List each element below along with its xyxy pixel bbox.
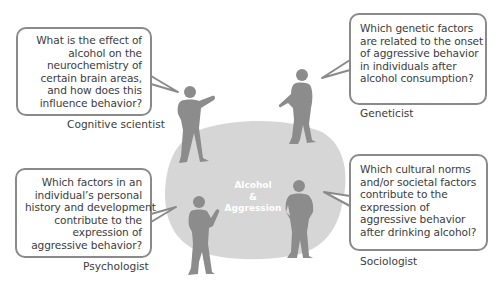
question-line: are related to the onset — [360, 35, 476, 48]
question-line: expression of — [25, 226, 142, 239]
question-line: contribute to the — [360, 188, 477, 201]
pointer-top-right — [322, 60, 350, 78]
role-label-psychologist: Psychologist — [83, 260, 149, 272]
question-line: alcohol on the — [26, 47, 142, 60]
question-line: neurochemistry of — [26, 59, 142, 72]
question-bubble-sociologist: Which cultural norms and/or societal fac… — [349, 154, 488, 251]
question-line: history and development — [25, 201, 142, 214]
center-label: Alcohol & Aggression — [218, 180, 288, 215]
question-line: and how does this — [26, 84, 142, 97]
center-label-line-2: & — [218, 192, 288, 204]
diagram: Alcohol & Aggression What is the effect … — [0, 0, 501, 286]
question-line: individual’s personal — [25, 189, 142, 202]
question-line: aggressive behavior — [360, 213, 477, 226]
question-bubble-geneticist: Which genetic factors are related to the… — [349, 13, 487, 105]
question-line: of aggressive behavior — [360, 47, 476, 60]
question-line: alcohol consumption? — [360, 72, 476, 85]
question-line: Which factors in an — [25, 176, 142, 189]
question-bubble-cognitive-scientist: What is the effect of alcohol on the neu… — [16, 27, 152, 116]
role-label-sociologist: Sociologist — [360, 255, 417, 267]
role-label-geneticist: Geneticist — [360, 107, 414, 119]
question-line: after drinking alcohol? — [360, 226, 477, 239]
question-line: certain brain areas, — [26, 72, 142, 85]
center-label-line-1: Alcohol — [218, 180, 288, 192]
question-line: What is the effect of — [26, 34, 142, 47]
question-line: aggressive behavior? — [25, 239, 142, 252]
center-label-line-3: Aggression — [218, 203, 288, 215]
role-label-cognitive-scientist: Cognitive scientist — [67, 118, 165, 130]
question-line: Which genetic factors — [360, 22, 476, 35]
pointer-top-left — [151, 76, 178, 92]
question-line: expression of — [360, 201, 477, 214]
question-line: and/or societal factors — [360, 176, 477, 189]
question-line: contribute to the — [25, 214, 142, 227]
question-line: in individuals after — [360, 60, 476, 73]
question-line: influence behavior? — [26, 97, 142, 110]
question-line: Which cultural norms — [360, 163, 477, 176]
question-bubble-psychologist: Which factors in an individual’s persona… — [15, 168, 152, 258]
